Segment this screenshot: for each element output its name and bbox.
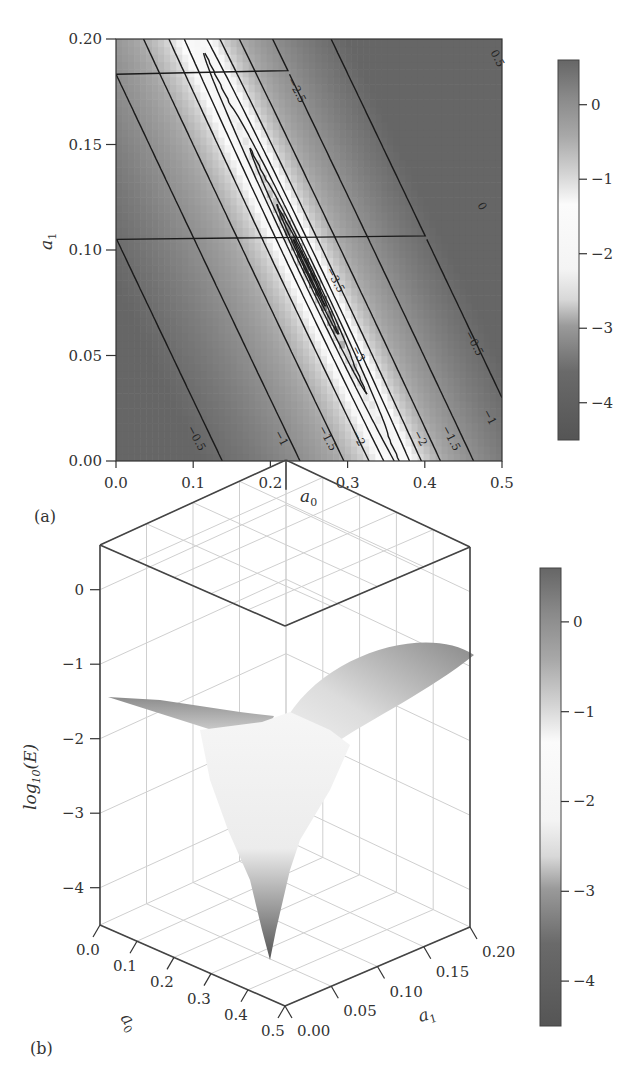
heatmap-cell — [170, 288, 177, 296]
heatmap-cell — [194, 356, 201, 364]
heatmap-cell — [255, 401, 262, 409]
heatmap-cell — [122, 197, 129, 205]
heatmap-cell — [122, 431, 129, 439]
heatmap-cell — [182, 310, 189, 318]
heatmap-cell — [291, 160, 298, 168]
heatmap-cell — [369, 205, 376, 213]
heatmap-cell — [249, 242, 256, 250]
panel-label-a: (a) — [34, 507, 56, 526]
heatmap-cell — [279, 99, 286, 107]
heatmap-cell — [152, 438, 159, 446]
heatmap-cell — [484, 190, 491, 198]
heatmap-cell — [267, 84, 274, 92]
heatmap-cell — [333, 122, 340, 130]
heatmap-cell — [399, 114, 406, 122]
heatmap-cell — [158, 39, 165, 47]
heatmap-cell — [273, 348, 280, 356]
heatmap-cell — [206, 378, 213, 386]
heatmap-cell — [484, 152, 491, 160]
heatmap-cell — [182, 438, 189, 446]
heatmap-cell — [393, 348, 400, 356]
heatmap-cell — [472, 114, 479, 122]
heatmap-cell — [442, 408, 449, 416]
heatmap-cell — [206, 408, 213, 416]
heatmap-cell — [399, 333, 406, 341]
heatmap-cell — [279, 39, 286, 47]
heatmap-cell — [231, 114, 238, 122]
heatmap-cell — [442, 39, 449, 47]
heatmap-cell — [231, 205, 238, 213]
heatmap-cell — [243, 137, 250, 145]
heatmap-cell — [128, 356, 135, 364]
heatmap-cell — [399, 175, 406, 183]
heatmap-cell — [418, 325, 425, 333]
heatmap-cell — [369, 145, 376, 153]
heatmap-cell — [194, 197, 201, 205]
heatmap-cell — [182, 363, 189, 371]
heatmap-cell — [116, 310, 123, 318]
heatmap-cell — [279, 348, 286, 356]
heatmap-cell — [194, 47, 201, 55]
heatmap-cell — [442, 227, 449, 235]
heatmap-cell — [369, 340, 376, 348]
heatmap-cell — [309, 129, 316, 137]
heatmap-cell — [164, 371, 171, 379]
heatmap-cell — [315, 114, 322, 122]
heatmap-cell — [430, 84, 437, 92]
heatmap-cell — [188, 152, 195, 160]
heatmap-cell — [164, 303, 171, 311]
heatmap-cell — [430, 220, 437, 228]
heatmap-cell — [321, 99, 328, 107]
heatmap-cell — [152, 122, 159, 130]
heatmap-cell — [249, 438, 256, 446]
heatmap-cell — [424, 160, 431, 168]
heatmap-cell — [430, 348, 437, 356]
heatmap-cell — [436, 84, 443, 92]
heatmap-cell — [369, 39, 376, 47]
heatmap-cell — [436, 99, 443, 107]
heatmap-cell — [249, 340, 256, 348]
heatmap-cell — [176, 190, 183, 198]
heatmap-cell — [134, 242, 141, 250]
heatmap-cell — [381, 356, 388, 364]
heatmap-cell — [225, 242, 232, 250]
heatmap-cell — [490, 227, 497, 235]
heatmap-cell — [478, 250, 485, 258]
heatmap-cell — [424, 318, 431, 326]
heatmap-cell — [442, 92, 449, 100]
heatmap-cell — [261, 265, 268, 273]
heatmap-cell — [436, 438, 443, 446]
heatmap-cell — [393, 190, 400, 198]
heatmap-cell — [466, 423, 473, 431]
heatmap-cell — [478, 175, 485, 183]
heatmap-cell — [164, 363, 171, 371]
heatmap-cell — [436, 273, 443, 281]
heatmap-cell — [381, 175, 388, 183]
heatmap-cell — [393, 129, 400, 137]
heatmap-cell — [243, 310, 250, 318]
heatmap-cell — [303, 348, 310, 356]
heatmap-cell — [128, 416, 135, 424]
heatmap-cell — [243, 235, 250, 243]
heatmap-cell — [158, 122, 165, 130]
heatmap-cell — [321, 235, 328, 243]
heatmap-cell — [315, 182, 322, 190]
heatmap-cell — [225, 393, 232, 401]
heatmap-cell — [122, 371, 129, 379]
heatmap-cell — [146, 152, 153, 160]
heatmap-cell — [381, 62, 388, 70]
heatmap-cell — [170, 160, 177, 168]
heatmap-cell — [466, 190, 473, 198]
heatmap-cell — [357, 122, 364, 130]
heatmap-cell — [375, 205, 382, 213]
heatmap-cell — [442, 77, 449, 85]
heatmap-cell — [116, 205, 123, 213]
heatmap-cell — [424, 205, 431, 213]
heatmap-cell — [448, 265, 455, 273]
heatmap-cell — [339, 393, 346, 401]
heatmap-cell — [176, 378, 183, 386]
heatmap-cell — [140, 303, 147, 311]
heatmap-cell — [164, 114, 171, 122]
heatmap-cell — [406, 371, 413, 379]
heatmap-cell — [164, 295, 171, 303]
